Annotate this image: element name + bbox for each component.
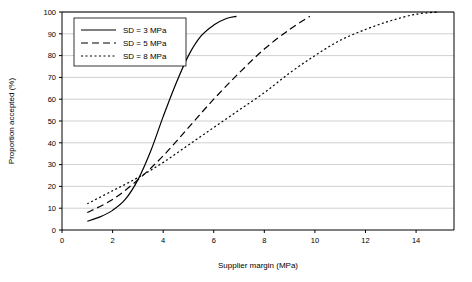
x-tick-label: 4 — [161, 236, 165, 245]
x-tick-label: 10 — [311, 236, 319, 245]
x-tick-label: 12 — [361, 236, 369, 245]
x-tick-label: 0 — [60, 236, 64, 245]
y-tick-label: 50 — [48, 117, 56, 126]
chart-container: 010203040506070809010002468101214Supplie… — [0, 0, 472, 282]
y-tick-label: 0 — [52, 226, 56, 235]
x-tick-label: 14 — [412, 236, 420, 245]
y-tick-label: 90 — [48, 30, 56, 39]
x-tick-label: 2 — [110, 236, 114, 245]
y-tick-label: 10 — [48, 204, 56, 213]
x-axis-label: Supplier margin (MPa) — [218, 261, 298, 270]
y-axis-label: Proportion accepted (%) — [7, 78, 16, 165]
y-tick-label: 30 — [48, 160, 56, 169]
y-tick-label: 40 — [48, 139, 56, 148]
legend-label-3: SD = 8 MPa — [123, 52, 167, 61]
y-tick-label: 20 — [48, 182, 56, 191]
y-tick-label: 100 — [43, 8, 56, 17]
x-tick-label: 6 — [212, 236, 216, 245]
legend-label-2: SD = 5 MPa — [123, 39, 167, 48]
y-tick-label: 80 — [48, 51, 56, 60]
y-tick-label: 70 — [48, 73, 56, 82]
line-chart: 010203040506070809010002468101214Supplie… — [0, 0, 472, 282]
y-tick-label: 60 — [48, 95, 56, 104]
legend-label-1: SD = 3 MPa — [123, 26, 167, 35]
x-tick-label: 8 — [262, 236, 266, 245]
